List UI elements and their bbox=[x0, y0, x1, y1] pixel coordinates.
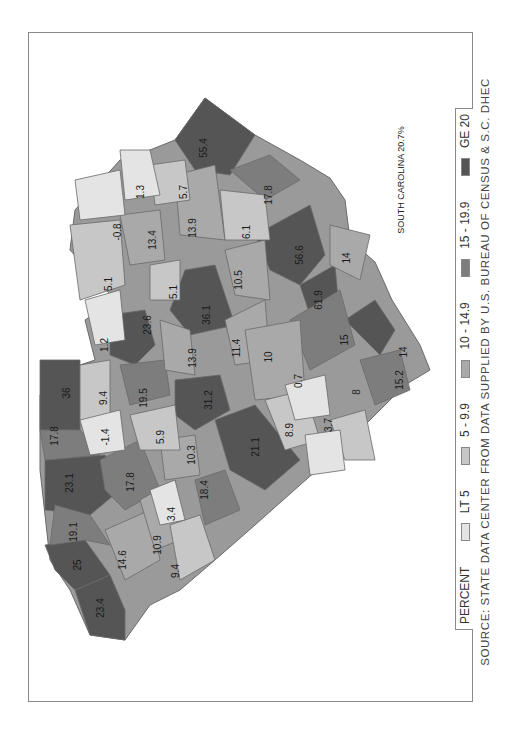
svg-text:15.2: 15.2 bbox=[394, 370, 405, 390]
svg-text:-1.4: -1.4 bbox=[100, 428, 111, 446]
legend-item-lt5: LT 5 bbox=[458, 490, 472, 541]
svg-text:17.8: 17.8 bbox=[125, 472, 136, 492]
svg-text:8.9: 8.9 bbox=[284, 423, 295, 437]
svg-text:9.4: 9.4 bbox=[98, 391, 109, 405]
svg-text:18.4: 18.4 bbox=[199, 480, 210, 500]
svg-text:1.2: 1.2 bbox=[99, 338, 110, 352]
svg-text:10.9: 10.9 bbox=[152, 535, 163, 555]
svg-text:13.9: 13.9 bbox=[187, 218, 198, 238]
legend-swatch-icon bbox=[460, 259, 469, 277]
svg-text:0.7: 0.7 bbox=[293, 374, 304, 388]
svg-text:23.4: 23.4 bbox=[95, 598, 106, 618]
svg-text:13.4: 13.4 bbox=[147, 230, 158, 250]
svg-text:5.1: 5.1 bbox=[168, 285, 179, 299]
svg-text:8: 8 bbox=[351, 389, 362, 395]
svg-text:3.4: 3.4 bbox=[166, 507, 177, 521]
legend-swatch-icon bbox=[460, 523, 469, 541]
svg-text:17.8: 17.8 bbox=[263, 185, 274, 205]
state-total-label: SOUTH CAROLINA 20.7% bbox=[396, 126, 406, 234]
svg-text:17.8: 17.8 bbox=[49, 426, 60, 446]
svg-text:-0.8: -0.8 bbox=[112, 223, 123, 241]
svg-text:13.9: 13.9 bbox=[187, 348, 198, 368]
svg-text:23.1: 23.1 bbox=[64, 473, 75, 493]
svg-text:5.9: 5.9 bbox=[155, 430, 166, 444]
svg-text:56.6: 56.6 bbox=[294, 245, 305, 265]
svg-text:9.4: 9.4 bbox=[170, 564, 181, 578]
svg-text:31.2: 31.2 bbox=[203, 390, 214, 410]
svg-text:61.9: 61.9 bbox=[313, 290, 324, 310]
svg-text:23.6: 23.6 bbox=[142, 315, 153, 335]
svg-text:36.1: 36.1 bbox=[201, 305, 212, 325]
svg-text:21.1: 21.1 bbox=[250, 437, 261, 457]
svg-text:25: 25 bbox=[72, 559, 83, 571]
legend-item-ge20: GE 20 bbox=[458, 114, 472, 176]
legend-swatch-icon bbox=[460, 360, 469, 378]
svg-text:15: 15 bbox=[339, 334, 350, 346]
svg-text:10: 10 bbox=[263, 351, 274, 363]
svg-text:55.4: 55.4 bbox=[198, 138, 209, 158]
legend-swatch-icon bbox=[460, 447, 469, 465]
svg-text:5.1: 5.1 bbox=[103, 277, 114, 291]
county bbox=[75, 170, 125, 220]
south-carolina-county-map: 23.4 25 19.1 14.6 10.9 9.4 3.4 18.4 23.1… bbox=[0, 0, 506, 734]
svg-text:1.3: 1.3 bbox=[135, 185, 146, 199]
svg-text:14: 14 bbox=[398, 346, 409, 358]
svg-text:3.7: 3.7 bbox=[323, 418, 334, 432]
legend-swatch-icon bbox=[460, 158, 469, 176]
svg-text:36: 36 bbox=[61, 387, 72, 399]
svg-text:14.6: 14.6 bbox=[117, 550, 128, 570]
svg-text:5.7: 5.7 bbox=[178, 185, 189, 199]
legend-title: PERCENT bbox=[458, 567, 472, 624]
svg-text:11.4: 11.4 bbox=[231, 338, 242, 357]
svg-text:10.5: 10.5 bbox=[233, 270, 244, 290]
svg-text:19.1: 19.1 bbox=[68, 522, 79, 542]
source-note: SOURCE: STATE DATA CENTER FROM DATA SUPP… bbox=[478, 48, 492, 696]
legend: PERCENT LT 5 5 - 9.9 10 - 14.9 15 - 19.9… bbox=[455, 108, 473, 630]
county bbox=[40, 360, 80, 430]
county bbox=[305, 430, 345, 475]
svg-text:14: 14 bbox=[341, 252, 352, 264]
legend-item-15-19: 15 - 19.9 bbox=[458, 201, 472, 276]
legend-item-5-9: 5 - 9.9 bbox=[458, 403, 472, 465]
svg-text:10.3: 10.3 bbox=[186, 445, 197, 465]
legend-item-10-14: 10 - 14.9 bbox=[458, 302, 472, 377]
svg-text:6.1: 6.1 bbox=[241, 225, 252, 239]
svg-text:19.5: 19.5 bbox=[138, 388, 149, 408]
